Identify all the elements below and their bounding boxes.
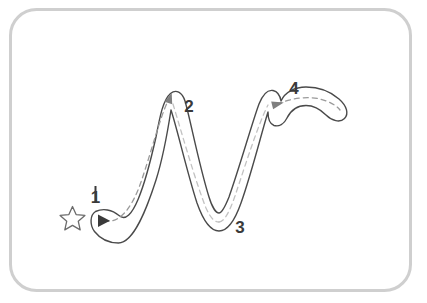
card-background [0,0,427,303]
worksheet-canvas: 1 2 3 4 [0,0,427,303]
tracing-worksheet-card: 1 2 3 4 [0,0,427,303]
stroke-label-1: 1 [91,186,100,207]
stroke-label-4: 4 [289,79,299,98]
stroke-label-3: 3 [235,218,244,237]
stroke-label-2: 2 [184,97,193,116]
stroke-label-1-text: 1 [91,188,100,207]
